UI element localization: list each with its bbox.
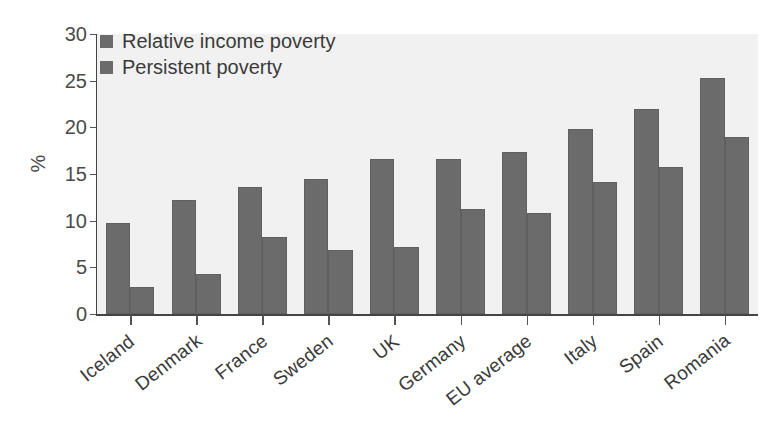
x-tick-label-spain: Spain [615, 330, 668, 378]
bar-group [436, 34, 485, 314]
legend-label: Persistent poverty [122, 57, 282, 77]
x-tick-label-france: France [211, 330, 272, 384]
x-tick-mark [593, 315, 595, 325]
bar-romania-series-1[interactable] [725, 137, 749, 314]
y-tick-label: 0 [47, 304, 87, 324]
x-tick-mark [328, 315, 330, 325]
bar-italy-series-1[interactable] [593, 182, 617, 314]
bar-romania-series-0[interactable] [700, 78, 724, 314]
bar-iceland-series-0[interactable] [106, 223, 130, 314]
bar-uk-series-1[interactable] [394, 247, 418, 314]
y-tick-label: 25 [47, 71, 87, 91]
bar-denmark-series-0[interactable] [172, 200, 196, 314]
x-tick-mark [659, 315, 661, 325]
y-tick-label: 10 [47, 211, 87, 231]
bar-iceland-series-1[interactable] [130, 287, 154, 314]
bar-denmark-series-1[interactable] [196, 274, 220, 314]
x-tick-label-denmark: Denmark [131, 330, 206, 396]
y-tick-label: 20 [47, 117, 87, 137]
bar-eu-average-series-0[interactable] [502, 152, 526, 314]
x-tick-label-romania: Romania [660, 330, 735, 395]
bar-uk-series-0[interactable] [370, 159, 394, 314]
y-tick-label: 30 [47, 24, 87, 44]
bar-group [502, 34, 551, 314]
bar-sweden-series-0[interactable] [304, 179, 328, 314]
x-tick-mark [196, 315, 198, 325]
legend-label: Relative income poverty [122, 31, 335, 51]
x-tick-mark [461, 315, 463, 325]
bar-group [568, 34, 617, 314]
bar-group [634, 34, 683, 314]
x-tick-label-italy: Italy [560, 330, 602, 369]
x-tick-mark [527, 315, 529, 325]
legend-swatch-icon [100, 61, 113, 74]
bar-eu-average-series-1[interactable] [527, 213, 551, 314]
x-tick-mark [130, 315, 132, 325]
bar-group [370, 34, 419, 314]
chart-legend: Relative income povertyPersistent povert… [100, 28, 335, 80]
y-tick-label: 5 [47, 257, 87, 277]
bar-italy-series-0[interactable] [568, 129, 592, 314]
x-tick-mark [262, 315, 264, 325]
poverty-bar-chart: % 051015202530 IcelandDenmarkFranceSwede… [0, 0, 773, 429]
x-tick-label-sweden: Sweden [269, 330, 338, 390]
bar-sweden-series-1[interactable] [328, 250, 352, 314]
bar-france-series-1[interactable] [262, 237, 286, 314]
legend-item-0[interactable]: Relative income poverty [100, 28, 335, 54]
x-tick-mark [394, 315, 396, 325]
bar-germany-series-1[interactable] [461, 209, 485, 314]
bar-group [700, 34, 749, 314]
x-tick-mark [725, 315, 727, 325]
legend-item-1[interactable]: Persistent poverty [100, 54, 335, 80]
x-tick-label-uk: UK [369, 330, 404, 364]
bar-france-series-0[interactable] [238, 187, 262, 314]
bar-spain-series-0[interactable] [634, 109, 658, 314]
bar-spain-series-1[interactable] [659, 167, 683, 314]
y-tick-label: 15 [47, 164, 87, 184]
bar-germany-series-0[interactable] [436, 159, 460, 314]
legend-swatch-icon [100, 35, 113, 48]
